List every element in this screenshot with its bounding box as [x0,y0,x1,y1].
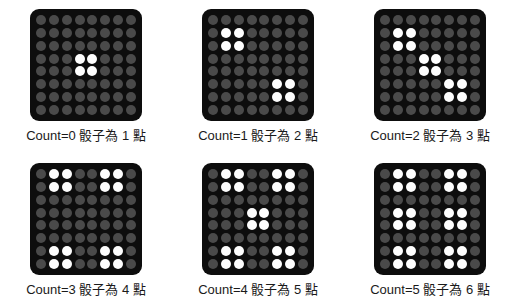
led-dot [285,28,295,38]
led-dot [272,246,282,256]
led-off [99,27,112,40]
led-dot [406,28,416,38]
led-off [258,181,271,194]
led-dot [272,41,282,51]
led-on [392,245,405,258]
led-dot [380,28,390,38]
led-dot [75,105,85,115]
led-off [48,194,61,207]
led-off [233,232,246,245]
led-dot [393,41,403,51]
led-dot [87,208,97,218]
led-dot [259,208,269,218]
led-off [443,194,456,207]
led-on [392,206,405,219]
led-dot [419,105,429,115]
led-dot [87,220,97,230]
led-dot [234,28,244,38]
led-off [379,168,392,181]
led-off [73,27,86,40]
led-off [258,78,271,91]
led-on [405,257,418,270]
led-dot [298,169,308,179]
led-off [112,194,125,207]
led-off [430,27,443,40]
led-off [220,52,233,65]
led-dot [36,79,46,89]
led-dot [75,208,85,218]
led-off [417,206,430,219]
led-off [61,194,74,207]
led-on [258,206,271,219]
led-off [61,232,74,245]
led-dot [87,195,97,205]
led-on [220,27,233,40]
led-on [48,257,61,270]
led-dot [444,66,454,76]
led-off [392,103,405,116]
led-off [405,194,418,207]
led-off [405,65,418,78]
led-off [112,14,125,27]
led-off [258,194,271,207]
led-on [233,168,246,181]
led-on [112,181,125,194]
led-dot [36,182,46,192]
led-off [99,91,112,104]
led-off [456,52,469,65]
led-off [73,206,86,219]
led-off [296,257,309,270]
led-off [296,219,309,232]
led-dot [470,15,480,25]
led-dot [380,208,390,218]
led-dot [431,208,441,218]
led-dot [272,208,282,218]
led-dot [208,79,218,89]
led-off [284,40,297,53]
led-dot [298,246,308,256]
led-off [456,103,469,116]
led-off [379,257,392,270]
led-on [86,65,99,78]
led-off [271,219,284,232]
led-off [207,245,220,258]
led-off [443,52,456,65]
led-dot [470,259,480,269]
led-dot [393,66,403,76]
led-dot [431,105,441,115]
led-dot [247,105,257,115]
led-dot [87,182,97,192]
led-dot [247,15,257,25]
led-dot [100,182,110,192]
led-off [296,181,309,194]
led-off [284,27,297,40]
led-dot [406,169,416,179]
led-off [456,232,469,245]
led-dot [406,182,416,192]
led-dot [113,79,123,89]
led-dot [272,66,282,76]
led-off [417,257,430,270]
led-on [271,78,284,91]
led-on [405,27,418,40]
led-on [392,181,405,194]
led-dot [444,41,454,51]
led-on [112,168,125,181]
led-off [284,194,297,207]
led-dot [221,169,231,179]
led-dot [247,28,257,38]
led-dot [100,15,110,25]
led-dot [406,15,416,25]
led-dot [247,182,257,192]
led-off [35,181,48,194]
led-off [99,40,112,53]
led-dot [298,15,308,25]
led-dot [457,79,467,89]
led-off [61,91,74,104]
led-off [86,232,99,245]
led-dot [113,208,123,218]
led-dot [419,15,429,25]
led-off [430,232,443,245]
led-dot [87,66,97,76]
led-off [35,78,48,91]
